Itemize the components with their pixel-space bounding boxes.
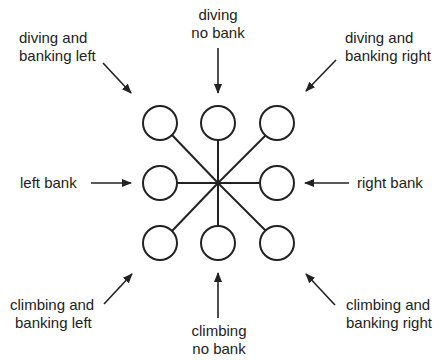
arrow-climbing-left	[104, 274, 132, 304]
attitude-diagram: diving and banking left diving no bank d…	[0, 0, 444, 360]
label-diving-right-1: diving and	[345, 29, 413, 46]
label-diving-right-2: banking right	[345, 47, 432, 64]
position-climbing-nobank	[201, 226, 235, 260]
label-climbing-nobank-1: climbing	[191, 322, 246, 339]
label-left-bank: left bank	[20, 174, 77, 191]
position-diving-right	[260, 106, 294, 140]
label-climbing-right-2: banking right	[346, 314, 433, 331]
arrow-diving-right	[306, 60, 336, 91]
label-diving-nobank-1: diving	[198, 6, 237, 23]
spokes	[172, 135, 266, 231]
label-diving-nobank-2: no bank	[191, 24, 245, 41]
label-climbing-right-1: climbing and	[346, 296, 430, 313]
position-diving-left	[143, 106, 177, 140]
position-left-bank	[143, 166, 177, 200]
position-climbing-right	[260, 226, 294, 260]
label-diving-left-2: banking left	[19, 47, 97, 64]
position-diving-nobank	[201, 106, 235, 140]
arrow-diving-left	[103, 63, 131, 93]
label-right-bank: right bank	[357, 174, 423, 191]
label-climbing-left-2: banking left	[15, 314, 93, 331]
position-right-bank	[260, 166, 294, 200]
label-climbing-nobank-2: no bank	[192, 340, 246, 357]
label-diving-left-1: diving and	[19, 29, 87, 46]
position-climbing-left	[143, 226, 177, 260]
label-climbing-left-1: climbing and	[10, 296, 94, 313]
arrow-climbing-right	[306, 274, 335, 305]
